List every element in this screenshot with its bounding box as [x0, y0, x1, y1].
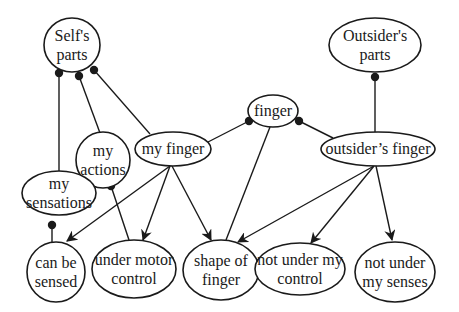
- edge-under-motor-control-to-my-actions: [111, 186, 129, 240]
- node-under-motor-control: under motorcontrol: [92, 240, 176, 298]
- edge-outsider-finger-to-finger: [299, 121, 333, 138]
- dot-connector-icon: [48, 221, 56, 229]
- node-label: actions: [80, 161, 125, 178]
- node-label: outsider’s finger: [325, 140, 431, 158]
- dot-connector-icon: [90, 66, 98, 74]
- node-my-finger: my finger: [135, 132, 211, 166]
- node-my-sensations: mysensations: [22, 171, 96, 215]
- node-label: my: [93, 142, 113, 160]
- dot-connector-icon: [371, 73, 379, 81]
- node-label: my finger: [142, 140, 205, 158]
- node-outsider-finger: outsider’s finger: [321, 132, 435, 166]
- node-label: parts: [56, 46, 87, 64]
- node-label: Self's: [55, 27, 90, 44]
- edge-outsider-finger-to-not-under-my-control: [311, 166, 374, 243]
- node-label: not under my: [257, 251, 342, 269]
- node-label: finger: [202, 271, 241, 289]
- node-label: sensed: [35, 273, 78, 290]
- node-not-under-my-control: not under mycontrol: [255, 243, 345, 295]
- node-label: shape of: [194, 252, 248, 270]
- node-shape-of-finger: shape offinger: [183, 240, 259, 300]
- node-label: parts: [359, 46, 390, 64]
- semantic-network-diagram: Self'spartsOutsider'spartsfingermy finge…: [0, 0, 459, 312]
- node-label: finger: [254, 102, 293, 120]
- edge-outsider-finger-to-shape-of-finger: [238, 166, 374, 242]
- edge-my-finger-to-finger: [208, 121, 249, 142]
- edge-my-finger-to-self-parts: [94, 70, 150, 134]
- node-label: under motor: [95, 251, 174, 268]
- nodes-layer: Self'spartsOutsider'spartsfingermy finge…: [22, 18, 435, 302]
- node-label: my senses: [362, 273, 427, 291]
- node-can-be-sensed: can besensed: [27, 242, 85, 302]
- node-label: not under: [365, 254, 427, 271]
- node-self-parts: Self'sparts: [44, 18, 100, 72]
- node-label: sensations: [26, 194, 92, 211]
- node-label: can be: [35, 254, 76, 271]
- node-label: control: [277, 270, 323, 287]
- edge-outsider-finger-to-not-under-my-senses: [376, 166, 392, 240]
- edge-my-finger-to-shape-of-finger: [172, 166, 211, 240]
- node-outsider-parts: Outsider'sparts: [329, 18, 421, 72]
- node-label: my: [49, 175, 69, 193]
- dot-connector-icon: [75, 72, 83, 80]
- node-not-under-my-senses: not undermy senses: [355, 242, 435, 302]
- node-finger: finger: [248, 95, 298, 127]
- edge-finger-to-shape-of-finger: [226, 127, 270, 240]
- edge-my-actions-to-self-parts: [79, 76, 100, 133]
- node-label: Outsider's: [343, 27, 407, 44]
- edge-my-finger-to-under-motor-control: [143, 166, 170, 240]
- node-label: control: [111, 270, 157, 287]
